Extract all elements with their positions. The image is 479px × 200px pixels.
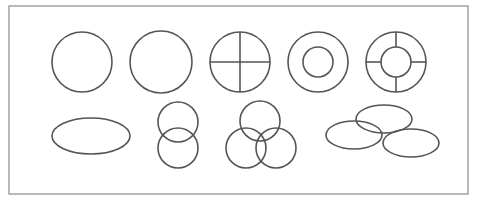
inner-circle: [303, 47, 333, 77]
concentric-rings-shape: [288, 32, 348, 92]
circle-outline-2: [158, 128, 198, 168]
plain-circle-1-shape: [52, 32, 112, 92]
three-overlapping-ellipses-shape: [326, 105, 439, 157]
top-row-shapes: [52, 31, 426, 93]
single-ellipse-shape: [52, 118, 130, 154]
ellipse-outline-1: [326, 121, 382, 149]
circle-outline: [130, 31, 192, 93]
outer-circle: [288, 32, 348, 92]
ellipse-outline-3: [383, 129, 439, 157]
ring-with-spokes-shape: [366, 32, 426, 92]
ellipse-outline: [52, 118, 130, 154]
three-overlapping-circles-shape: [226, 101, 296, 168]
two-stacked-circles-shape: [158, 102, 198, 168]
inner-circle: [381, 47, 411, 77]
shapes-diagram: [0, 0, 479, 200]
circle-with-cross-shape: [210, 32, 270, 92]
plain-circle-2-shape: [130, 31, 192, 93]
circle-outline: [52, 32, 112, 92]
circle-outline-2: [226, 128, 266, 168]
bottom-row-shapes: [52, 101, 439, 168]
circle-outline-1: [158, 102, 198, 142]
